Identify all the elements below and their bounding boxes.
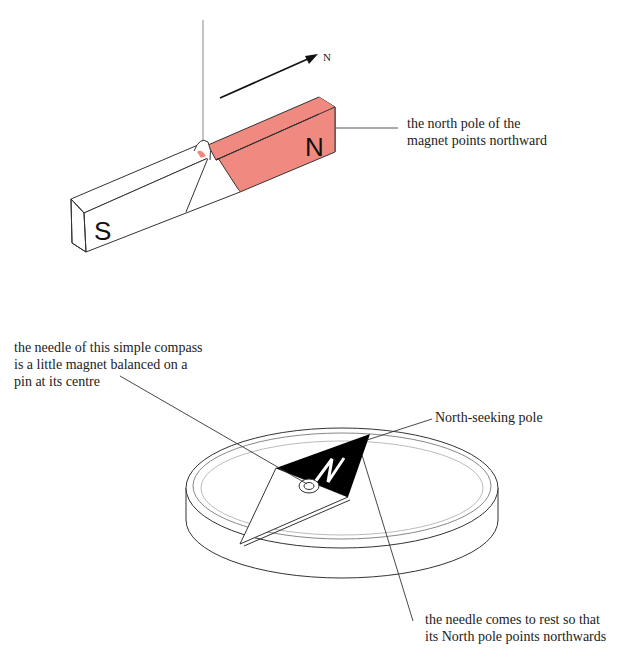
magnet-figure: N S N [71, 20, 398, 252]
pole-callout-text: North-seeking pole [435, 409, 543, 426]
diagram-canvas: N S N [0, 0, 641, 665]
magnet-north-pole-label: N [305, 132, 324, 162]
rest-callout-text: the needle comes to rest so that its Nor… [425, 611, 606, 645]
magnet-south-pole-label: S [94, 216, 111, 246]
magnet-callout-text: the north pole of the magnet points nort… [407, 115, 547, 149]
north-arrow-icon [220, 54, 318, 98]
diagram-svg: N S N [0, 0, 641, 665]
needle-callout-text: the needle of this simple compass is a l… [14, 339, 203, 390]
north-direction-label: N [323, 51, 331, 63]
